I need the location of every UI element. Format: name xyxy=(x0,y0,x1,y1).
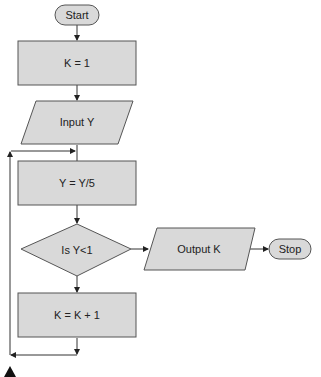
node-decision: Is Y<1 xyxy=(21,224,131,276)
node-output-label: Output K xyxy=(177,243,221,255)
node-stop-label: Stop xyxy=(279,243,302,255)
node-divide-label: Y = Y/5 xyxy=(59,177,95,189)
node-output: Output K xyxy=(144,228,255,270)
node-decision-label: Is Y<1 xyxy=(61,244,92,256)
node-increment: K = K + 1 xyxy=(18,293,136,337)
node-init-label: K = 1 xyxy=(64,57,90,69)
triangle-marker-icon xyxy=(4,366,16,377)
node-input: Input Y xyxy=(21,101,133,144)
node-input-label: Input Y xyxy=(60,116,95,128)
node-stop: Stop xyxy=(269,239,311,259)
node-start-label: Start xyxy=(65,9,88,21)
node-increment-label: K = K + 1 xyxy=(54,309,100,321)
node-start: Start xyxy=(55,5,99,25)
flowchart: Start K = 1 Input Y Y = Y/5 Is Y<1 Outpu… xyxy=(0,0,321,377)
node-divide: Y = Y/5 xyxy=(18,161,136,205)
node-init: K = 1 xyxy=(18,41,136,85)
